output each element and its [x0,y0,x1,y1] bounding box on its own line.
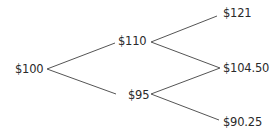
edge-95-104 [151,68,220,94]
edge-95-90 [151,94,219,120]
binomial-tree-diagram: $100 $110 $95 $121 $104.50 $90.25 [0,0,277,138]
edge-100-95 [47,69,116,94]
node-up-up: $121 [223,6,251,20]
node-root: $100 [15,62,43,76]
edge-110-104 [151,42,220,68]
edge-100-110 [47,43,115,69]
node-down-down: $90.25 [223,115,262,129]
node-up-down: $104.50 [223,61,269,75]
node-up: $110 [118,34,146,48]
node-down: $95 [128,88,149,102]
edge-110-121 [151,16,217,42]
